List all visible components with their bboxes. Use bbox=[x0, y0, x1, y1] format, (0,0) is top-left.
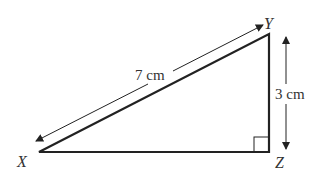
vertex-z-label: Z bbox=[275, 154, 285, 171]
hypotenuse-arrow-upper bbox=[173, 25, 263, 71]
hypotenuse-arrow-lower bbox=[36, 84, 148, 141]
vertex-x-label: X bbox=[16, 153, 28, 170]
right-angle-marker bbox=[254, 137, 269, 152]
side-yz-label: 3 cm bbox=[275, 86, 305, 102]
vertex-y-label: Y bbox=[264, 15, 275, 32]
triangle-diagram: 7 cm 3 cm X Y Z bbox=[0, 0, 320, 182]
hypotenuse-label: 7 cm bbox=[135, 67, 165, 83]
triangle-svg: 7 cm 3 cm X Y Z bbox=[0, 0, 320, 182]
triangle-xyz bbox=[39, 34, 269, 152]
